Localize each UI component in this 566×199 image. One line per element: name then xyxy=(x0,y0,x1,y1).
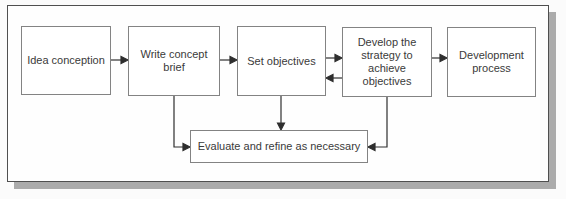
node-develop-strategy: Develop the strategy to achieve objectiv… xyxy=(342,27,432,97)
node-idea-conception-label: Idea conception xyxy=(27,54,105,67)
node-set-objectives-label: Set objectives xyxy=(247,55,315,68)
node-write-concept-brief-label: Write concept brief xyxy=(134,48,214,74)
node-development-process: Development process xyxy=(447,27,536,97)
node-set-objectives: Set objectives xyxy=(237,26,326,96)
node-develop-strategy-label: Develop the strategy to achieve objectiv… xyxy=(354,36,420,88)
node-write-concept-brief: Write concept brief xyxy=(128,26,220,96)
node-evaluate-refine: Evaluate and refine as necessary xyxy=(190,130,368,163)
flowchart-canvas: Idea conception Write concept brief Set … xyxy=(0,0,566,199)
node-evaluate-refine-label: Evaluate and refine as necessary xyxy=(198,140,361,153)
node-idea-conception: Idea conception xyxy=(21,26,111,95)
node-development-process-label: Development process xyxy=(452,49,532,75)
